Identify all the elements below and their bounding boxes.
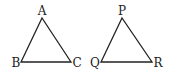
triangle-pqr: P Q R [90, 4, 163, 70]
vertex-label-a: A [37, 4, 47, 18]
vertex-label-b: B [12, 56, 21, 70]
vertex-label-r: R [153, 56, 163, 70]
triangle-abc-shape [21, 18, 71, 62]
vertex-label-p: P [118, 4, 126, 18]
triangle-abc: A B C [12, 4, 82, 70]
triangle-diagram: A B C P Q R [0, 0, 175, 76]
vertex-label-c: C [72, 56, 81, 70]
vertex-label-q: Q [90, 56, 100, 70]
triangle-pqr-shape [101, 18, 152, 62]
